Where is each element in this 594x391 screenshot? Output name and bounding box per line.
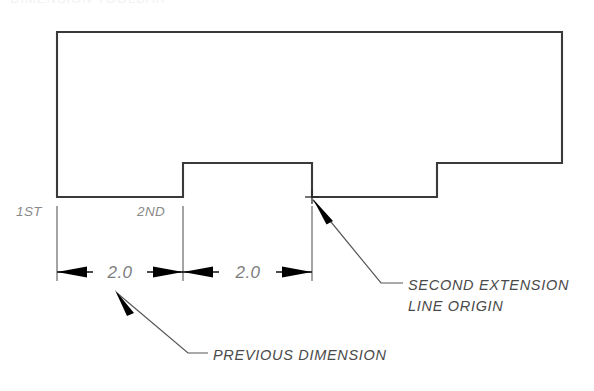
origin-note-line-2: LINE ORIGIN (408, 298, 504, 314)
drawing-canvas: 2.0 2.0 1ST 2ND SECOND EXTENSION LINE OR… (0, 0, 594, 391)
arrowhead-previous-dimension (115, 290, 134, 316)
first-origin-label: 1ST (16, 204, 43, 219)
arrowhead-right-pointing-left (183, 267, 213, 278)
dimension-segment-right: 2.0 (183, 263, 312, 282)
dimension-value-right: 2.0 (234, 263, 260, 282)
arrowhead-origin-note (313, 199, 333, 225)
origin-note-line-1: SECOND EXTENSION (408, 277, 569, 293)
leader-line-previous-dimension (117, 293, 208, 353)
dimension-segment-left: 2.0 (57, 263, 183, 282)
previous-dimension-note-line-1: PREVIOUS DIMENSION (213, 347, 387, 363)
leader-line-origin-note (313, 200, 403, 283)
part-outline-profile (57, 32, 562, 197)
arrowhead-right-pointing-right (282, 267, 312, 278)
arrowhead-left-pointing-right (153, 267, 183, 278)
arrowhead-left-pointing-left (57, 267, 87, 278)
previous-dimension-note: PREVIOUS DIMENSION (115, 290, 387, 363)
second-origin-label: 2ND (136, 204, 165, 219)
second-extension-line-origin-mark (305, 190, 319, 204)
second-extension-line-origin-note: SECOND EXTENSION LINE ORIGIN (313, 199, 569, 314)
cad-dimension-illustration: DIMENSION TOOLBAR 2.0 2.0 (0, 0, 594, 391)
dimension-value-left: 2.0 (106, 263, 132, 282)
